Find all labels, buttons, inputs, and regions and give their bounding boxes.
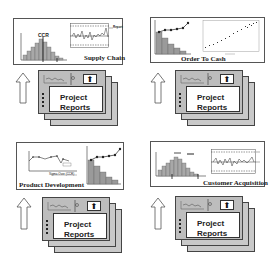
scatter-plot [199,20,261,56]
chart-panel-supply-chain: CCR Report Supply Chain [13,18,123,65]
page-dots [46,220,48,236]
panel-title: Customer Acquisition [203,179,268,187]
control-chart-label: Report [113,25,123,29]
quadrant-product-development: Sigma Over (CCR) Product Development [0,132,135,264]
panel-title: Supply Chain [84,54,125,62]
report-box: Project Reports [186,212,240,238]
report-up-button[interactable]: ⬆ [87,201,101,211]
page-dots [179,219,181,235]
report-sheet-front: ⬆ Project Reports [175,70,243,114]
panel-title: Product Development [19,181,84,189]
pareto-chart [153,20,193,56]
quadrant-order-to-cash: Order To Cash ⬆ Project Re [135,0,270,132]
report-box: Project Reports [186,86,240,112]
page-dots [179,93,181,109]
chart-panel-order-to-cash: Order To Cash [150,17,265,63]
report-label: Project Reports [60,93,90,113]
up-arrow-icon [16,197,32,230]
panel-title: Order To Cash [181,55,226,63]
control-chart [211,149,263,175]
quadrant-customer-acquisition: Customer Acquisition ⬆ Project [135,132,270,264]
up-arrow-icon [150,72,166,104]
report-sheet-front: ⬆ Project Reports [42,197,110,241]
thumbnail-chart-icon [43,73,79,85]
thumbnail-chart-icon [180,73,216,85]
up-arrow-icon: ⬆ [91,202,98,211]
project-reports-stack[interactable]: ⬆ Project Reports [175,70,257,128]
up-arrow-icon [15,72,31,104]
thumbnail-chart-icon [180,199,216,211]
page-dots [42,93,44,109]
control-chart [70,23,116,49]
up-arrow-icon: ⬆ [224,75,231,84]
report-up-button[interactable]: ⬆ [83,74,97,84]
project-reports-stack[interactable]: ⬆ Project Reports [175,196,257,254]
report-up-button[interactable]: ⬆ [220,74,234,84]
up-arrow-icon [150,197,166,230]
chart-panel-product-development: Sigma Over (CCR) Product Development [16,142,124,190]
report-sheet-front: ⬆ Project Reports [175,196,243,240]
report-sheet-front: ⬆ Project Reports [38,70,106,114]
up-arrow-icon: ⬆ [224,201,231,210]
thumbnail-chart-icon [47,200,83,212]
report-label: Project Reports [64,220,94,240]
report-up-button[interactable]: ⬆ [220,200,234,210]
pareto-chart [85,146,123,186]
report-box: Project Reports [53,213,107,239]
report-box: Project Reports [49,86,103,112]
report-label: Project Reports [197,93,227,113]
histogram-chart [154,150,208,180]
project-reports-stack[interactable]: ⬆ Project Reports [38,70,120,128]
chart-panel-customer-acquisition: Customer Acquisition [150,141,265,187]
line-chart-axis-label: Sigma Over (CCR) [49,172,74,176]
project-reports-stack[interactable]: ⬆ Project Reports [42,197,124,255]
report-label: Project Reports [197,219,227,239]
up-arrow-icon: ⬆ [87,75,94,84]
histogram-label: CCR [38,32,49,38]
quadrant-supply-chain: CCR Report Supply Chain ⬆ [0,0,135,132]
